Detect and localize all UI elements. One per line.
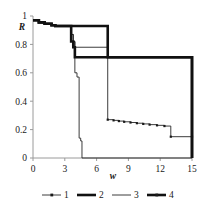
data-point-marker [170,136,172,138]
legend-marker [155,194,158,197]
data-point-marker [149,124,151,126]
y-tick-label: 0.6 [15,68,27,78]
data-point-marker [142,123,144,125]
y-axis-title: R [18,22,25,32]
data-point-marker [112,119,114,121]
data-point-marker [129,121,131,123]
y-tick-label: 1 [22,11,27,21]
plot-background [0,0,205,210]
y-tick-label: 0.2 [15,125,27,135]
x-tick-label: 15 [187,164,197,174]
x-tick-label: 6 [94,164,99,174]
line-chart: 00.20.40.60.81 03691215 R w 1234 [0,0,205,210]
y-tick-label: 0.8 [15,40,27,50]
legend-marker [50,194,53,197]
data-point-marker [156,124,158,126]
chart-container: 00.20.40.60.81 03691215 R w 1234 [0,0,205,210]
legend-label-3: 3 [134,190,139,200]
x-tick-label: 3 [62,164,67,174]
legend-label-2: 2 [99,190,104,200]
data-point-marker [107,119,109,121]
legend-label-1: 1 [64,190,69,200]
data-point-marker [136,122,138,124]
x-tick-label: 0 [31,164,36,174]
data-point-marker [123,121,125,123]
data-point-marker [118,120,120,122]
legend-label-4: 4 [169,190,174,200]
x-axis-title: w [110,171,117,181]
data-point-marker [163,125,165,127]
y-tick-label: 0 [22,153,27,163]
x-tick-label: 9 [126,164,131,174]
x-tick-label: 12 [155,164,165,174]
y-tick-label: 0.4 [15,97,27,107]
